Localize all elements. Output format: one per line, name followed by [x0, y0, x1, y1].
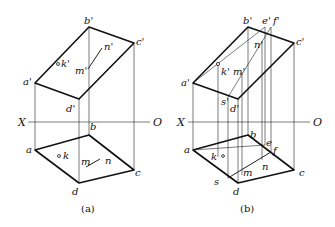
- label-c-prime: c': [136, 36, 144, 47]
- label-n: n: [262, 161, 268, 172]
- label-b: b: [250, 129, 256, 140]
- label-a-prime: a': [181, 77, 190, 88]
- label-k: k: [63, 150, 69, 161]
- figure-a: b' c' a' d' k' m' n' X O b a c d k m n (…: [17, 15, 162, 214]
- point-k-top: [222, 155, 225, 158]
- projection-diagram: b' c' a' d' k' m' n' X O b a c d k m n (…: [0, 0, 335, 227]
- label-k-prime: k': [221, 66, 230, 77]
- label-s: s: [214, 176, 219, 187]
- label-d-prime: d': [230, 103, 239, 114]
- label-n-prime: n': [254, 39, 263, 50]
- label-axis-o: O: [153, 116, 162, 129]
- label-axis-x: X: [176, 116, 186, 129]
- label-m-prime: m': [75, 65, 87, 76]
- label-axis-x: X: [17, 116, 27, 129]
- label-a: a: [26, 144, 32, 155]
- label-n-prime: n': [104, 41, 113, 52]
- label-f-prime: f': [272, 15, 279, 26]
- label-d: d: [72, 186, 78, 197]
- label-a-prime: a': [23, 76, 32, 87]
- label-m: m: [81, 156, 90, 167]
- label-k: k: [211, 151, 217, 162]
- caption-a: (a): [81, 203, 95, 214]
- point-k-top: [58, 155, 61, 158]
- label-m: m: [243, 167, 252, 178]
- front-view-plane: [35, 27, 134, 99]
- label-k-prime: k': [61, 58, 70, 69]
- front-view-plane: [193, 27, 294, 99]
- figure-b: b' e' f' c' a' n' k' m' s' d' X O b e f …: [176, 15, 322, 214]
- label-e-prime: e': [262, 15, 271, 26]
- label-d-prime: d': [66, 103, 75, 114]
- point-k-front: [216, 62, 219, 65]
- point-k-front: [57, 63, 60, 66]
- label-f: f: [272, 145, 279, 156]
- label-e: e: [266, 137, 272, 148]
- label-b: b: [90, 121, 96, 132]
- label-a: a: [184, 144, 190, 155]
- caption-b: (b): [240, 203, 254, 214]
- label-c: c: [135, 167, 141, 178]
- label-m-prime: m': [233, 66, 245, 77]
- label-b-prime: b': [84, 15, 93, 26]
- line-mn-front: [88, 48, 102, 69]
- label-c-prime: c': [296, 36, 304, 47]
- label-b-prime: b': [243, 15, 252, 26]
- label-c: c: [299, 167, 305, 178]
- label-d: d: [233, 186, 239, 197]
- label-axis-o: O: [313, 116, 322, 129]
- label-n: n: [105, 155, 111, 166]
- label-s-prime: s': [221, 96, 229, 107]
